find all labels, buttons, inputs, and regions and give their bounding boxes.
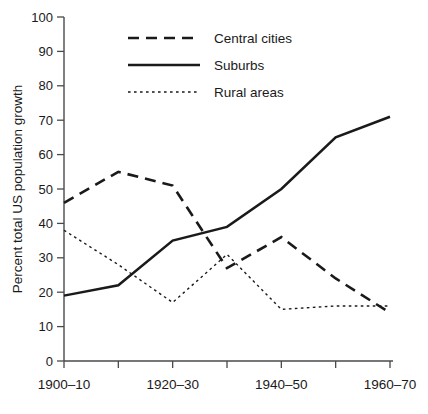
y-tick-label: 90 — [39, 44, 53, 59]
x-tick-label: 1900–10 — [38, 377, 91, 392]
legend-label-central-cities: Central cities — [214, 31, 292, 46]
series-line-central-cities — [64, 172, 390, 313]
y-tick-label: 60 — [39, 147, 53, 162]
y-tick-label: 70 — [39, 113, 53, 128]
legend-label-rural-areas: Rural areas — [214, 85, 284, 100]
line-chart: 01020304050607080901001900–101920–301940… — [0, 0, 428, 414]
y-tick-label: 40 — [39, 216, 53, 231]
x-tick-label: 1920–30 — [146, 377, 199, 392]
y-axis-title: Percent total US population growth — [10, 85, 25, 294]
chart-container: 01020304050607080901001900–101920–301940… — [0, 0, 428, 414]
x-tick-label: 1940–50 — [255, 377, 308, 392]
legend-label-suburbs: Suburbs — [214, 58, 265, 73]
y-tick-label: 100 — [31, 10, 53, 25]
series-line-rural-areas — [64, 230, 390, 309]
x-tick-label: 1960–70 — [364, 377, 417, 392]
y-tick-label: 0 — [46, 354, 53, 369]
y-tick-label: 80 — [39, 78, 53, 93]
y-tick-label: 30 — [39, 250, 53, 265]
y-tick-label: 20 — [39, 285, 53, 300]
y-tick-label: 10 — [39, 319, 53, 334]
y-tick-label: 50 — [39, 182, 53, 197]
